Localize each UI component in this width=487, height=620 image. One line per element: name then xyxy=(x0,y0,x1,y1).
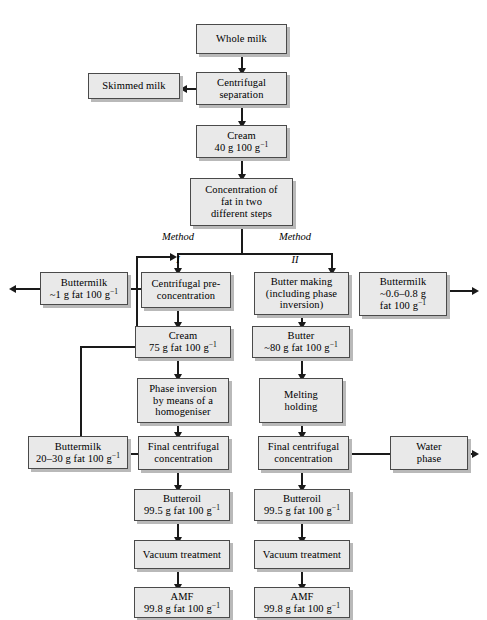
node-amf-2-text: AMF99.8 g fat 100 g−1 xyxy=(257,591,347,615)
node-butteroil-1[interactable]: Butteroil99.5 g fat 100 g−1 xyxy=(134,489,230,521)
node-melting-holding-text: Meltingholding xyxy=(262,389,340,413)
connector-buttermilk0608-exit xyxy=(448,290,474,292)
node-centrifugal-pre-text: Centrifugal pre-concentration xyxy=(144,278,228,302)
arrowhead-right-buttermilk0608-exit xyxy=(472,287,479,295)
node-vacuum-1[interactable]: Vacuum treatment xyxy=(134,540,230,569)
node-melting-holding[interactable]: Meltingholding xyxy=(259,378,343,423)
node-cream-40[interactable]: Cream40 g 100 g−1 xyxy=(196,125,287,158)
node-buttermilk-1[interactable]: Buttermilk~1 g fat 100 g−1 xyxy=(40,272,128,305)
node-final-centrifugal-1[interactable]: Final centrifugalconcentration xyxy=(138,436,229,470)
node-phase-inversion[interactable]: Phase inversionby means of ahomogeniser xyxy=(137,378,229,423)
method-2-line2: II xyxy=(260,254,330,266)
method-1-label: Method I xyxy=(143,219,213,277)
node-final-centrifugal-2-text: Final centrifugalconcentration xyxy=(261,441,346,465)
method-2-label: Method II xyxy=(260,219,330,277)
connector-recycle-horizontal-lower xyxy=(80,346,138,348)
node-butter-80-text: Butter~80 g fat 100 g−1 xyxy=(255,330,347,354)
node-buttermilk-06-08[interactable]: Buttermilk~0.6–0.8 gfat 100 g−1 xyxy=(359,272,447,316)
flowchart-canvas: Method I Method II Whole milk Centrifuga… xyxy=(0,0,487,620)
node-final-centrifugal-1-text: Final centrifugalconcentration xyxy=(141,441,226,465)
arrowhead-left-buttermilk1-exit xyxy=(9,285,16,293)
node-whole-milk-text: Whole milk xyxy=(199,33,284,45)
node-butteroil-2[interactable]: Butteroil99.5 g fat 100 g−1 xyxy=(254,489,350,521)
node-buttermilk-06-08-text: Buttermilk~0.6–0.8 gfat 100 g−1 xyxy=(362,276,444,311)
node-amf-1[interactable]: AMF99.8 g fat 100 g−1 xyxy=(134,587,230,618)
arrowhead-right-waterphase-exit xyxy=(472,450,479,458)
node-cream-75[interactable]: Cream75 g fat 100 g−1 xyxy=(135,326,231,358)
connector-buttermilk1-exit xyxy=(14,288,40,290)
node-centrifugal-separation[interactable]: Centrifugalseparation xyxy=(196,72,287,105)
node-skimmed-milk[interactable]: Skimmed milk xyxy=(88,73,180,99)
node-amf-2[interactable]: AMF99.8 g fat 100 g−1 xyxy=(254,587,350,618)
node-concentration-fat-text: Concentration offat in twodifferent step… xyxy=(193,184,290,219)
method-1-line1: Method xyxy=(143,231,213,243)
node-whole-milk[interactable]: Whole milk xyxy=(196,24,287,54)
node-vacuum-2-text: Vacuum treatment xyxy=(257,549,347,561)
node-cream-75-text: Cream75 g fat 100 g−1 xyxy=(138,330,228,354)
node-vacuum-2[interactable]: Vacuum treatment xyxy=(254,540,350,569)
node-water-phase[interactable]: Waterphase xyxy=(390,436,468,470)
node-phase-inversion-text: Phase inversionby means of ahomogeniser xyxy=(140,383,226,418)
node-buttermilk-1-text: Buttermilk~1 g fat 100 g−1 xyxy=(43,277,125,301)
node-butteroil-2-text: Butteroil99.5 g fat 100 g−1 xyxy=(257,493,347,517)
arrowhead-left-skimmed xyxy=(180,85,187,93)
node-centrifugal-separation-text: Centrifugalseparation xyxy=(199,77,284,101)
connector-concentration-down xyxy=(241,226,243,254)
node-water-phase-text: Waterphase xyxy=(393,441,465,465)
connector-final2-to-waterphase xyxy=(348,453,392,455)
node-skimmed-milk-text: Skimmed milk xyxy=(91,80,177,92)
method-2-line1: Method xyxy=(260,231,330,243)
node-amf-1-text: AMF99.8 g fat 100 g−1 xyxy=(137,591,227,615)
node-butteroil-1-text: Butteroil99.5 g fat 100 g−1 xyxy=(137,493,227,517)
node-butter-80[interactable]: Butter~80 g fat 100 g−1 xyxy=(252,326,350,358)
node-butter-making[interactable]: Butter making(including phaseinversion) xyxy=(254,272,349,315)
node-concentration-fat[interactable]: Concentration offat in twodifferent step… xyxy=(190,178,293,226)
node-buttermilk-20-30[interactable]: Buttermilk20–30 g fat 100 g−1 xyxy=(28,436,128,469)
node-centrifugal-pre[interactable]: Centrifugal pre-concentration xyxy=(141,272,231,308)
node-final-centrifugal-2[interactable]: Final centrifugalconcentration xyxy=(258,436,349,470)
connector-recycle-vertical-lower xyxy=(80,346,82,436)
node-buttermilk-20-30-text: Buttermilk20–30 g fat 100 g−1 xyxy=(31,441,125,465)
node-vacuum-1-text: Vacuum treatment xyxy=(137,549,227,561)
node-cream-40-text: Cream40 g 100 g−1 xyxy=(199,130,284,154)
method-1-line2: I xyxy=(143,254,213,266)
node-butter-making-text: Butter making(including phaseinversion) xyxy=(257,276,346,311)
